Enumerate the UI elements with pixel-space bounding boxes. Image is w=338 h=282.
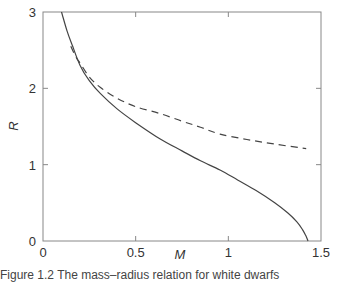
data-curves: [62, 12, 309, 241]
x-tick-label: 1: [225, 245, 232, 260]
y-axis-label: R: [6, 121, 21, 130]
x-tick-label: 0: [39, 245, 46, 260]
x-tick-label: 1.5: [312, 245, 330, 260]
y-tick-label: 3: [29, 5, 36, 20]
dashed-curve: [71, 46, 306, 148]
x-tick-label: 0.5: [127, 245, 145, 260]
x-axis-label: M: [175, 247, 186, 262]
axis-ticks: 00.511.50123: [29, 5, 330, 260]
y-tick-label: 0: [29, 234, 36, 249]
y-tick-label: 2: [29, 81, 36, 96]
figure-caption: Figure 1.2 The mass–radius relation for …: [0, 268, 338, 282]
y-tick-label: 1: [29, 158, 36, 173]
solid-curve: [62, 12, 309, 241]
